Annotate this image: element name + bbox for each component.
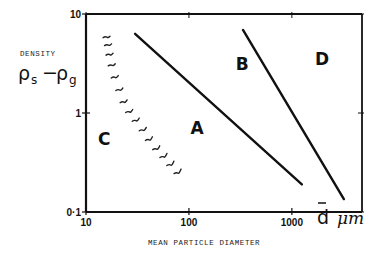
- hatch-mark: [145, 137, 152, 141]
- boundary-line: [135, 34, 302, 185]
- x-tick-label: 1000: [281, 217, 304, 228]
- hatch-mark: [111, 76, 118, 78]
- hatch-mark: [108, 64, 115, 66]
- hatch-mark: [153, 146, 160, 150]
- hatch-mark: [174, 169, 181, 174]
- hatch-mark: [120, 100, 127, 103]
- d-symbol: d: [317, 206, 329, 228]
- y-tick-label: 10: [70, 9, 82, 20]
- hatch-mark: [126, 110, 133, 113]
- hatch-mark: [105, 44, 112, 46]
- y-axis-expression: ρ s − ρ g: [18, 61, 77, 87]
- hatch-mark: [160, 153, 167, 157]
- micrometre-unit: μm: [337, 208, 364, 228]
- y-tick-label: 1: [75, 108, 81, 119]
- chart: 1010010000·1110 ABCD DENSITY ρ s − ρ g M…: [0, 0, 385, 257]
- x-axis-label: MEAN PARTICLE DIAMETER: [148, 239, 260, 247]
- x-tick-label: 10: [80, 217, 92, 228]
- axis-ticks: 1010010000·1110: [67, 9, 364, 228]
- x-tick-label: 100: [181, 217, 198, 228]
- rho-g-subscript: g: [69, 73, 77, 87]
- hatch-mark: [139, 127, 146, 130]
- region-label-d: D: [315, 49, 329, 69]
- y-axis-label: DENSITY: [20, 50, 56, 58]
- y-tick-label: 0·1: [67, 207, 82, 218]
- hatch-mark: [132, 118, 139, 121]
- rho-s-symbol: ρ: [18, 62, 30, 84]
- hatch-mark: [116, 88, 123, 91]
- region-label-a: A: [191, 118, 205, 138]
- x-axis-unit: d μm: [317, 203, 364, 228]
- region-label-b: B: [236, 54, 249, 74]
- region-label-c: C: [98, 129, 110, 149]
- rho-s-subscript: s: [31, 73, 37, 87]
- hatch-mark: [103, 36, 110, 38]
- rho-g-symbol: ρ: [56, 62, 68, 84]
- hatch-mark: [106, 53, 113, 55]
- region-labels: ABCD: [98, 49, 329, 149]
- hatch-mark: [167, 161, 174, 165]
- series-group: [103, 30, 344, 199]
